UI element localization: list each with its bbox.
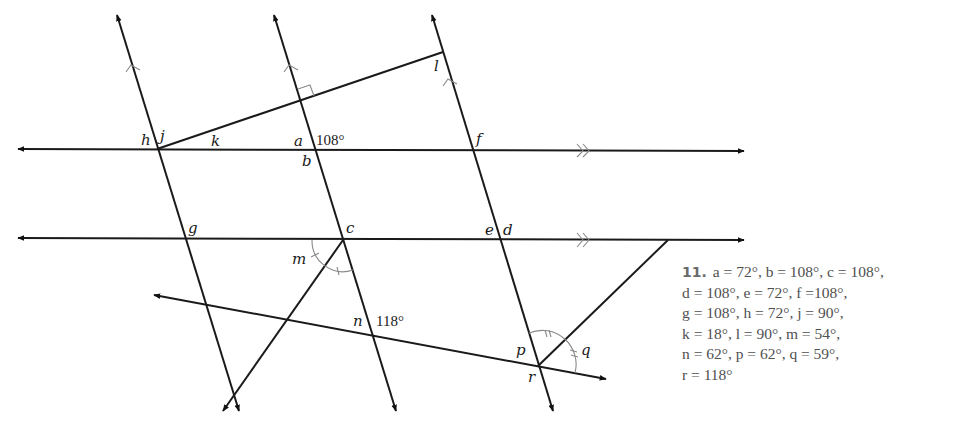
given-angle-118: 118° [376, 313, 404, 329]
answer-key: 11.a = 72°, b = 108°, c = 108°, d = 108°… [682, 262, 954, 386]
label-e: e [485, 221, 494, 239]
right-angle-marker-icon [298, 85, 314, 96]
label-n: n [353, 312, 363, 330]
label-d: d [503, 221, 513, 239]
horizontal-line-top [18, 149, 744, 151]
label-c: c [346, 219, 355, 237]
segment-r-to-middle-line [538, 240, 668, 366]
problem-number: 11. [682, 264, 707, 280]
label-r: r [528, 368, 536, 386]
answer-line-1: 11.a = 72°, b = 108°, c = 108°, [682, 262, 954, 283]
label-a: a [294, 132, 303, 150]
label-h: h [141, 131, 151, 149]
label-g: g [188, 219, 198, 237]
label-f: f [475, 130, 484, 148]
answer-line-3: g = 108°, h = 72°, j = 90°, [682, 303, 954, 324]
slanted-line-1 [117, 15, 239, 411]
slanted-line-3 [432, 15, 553, 411]
label-m: m [292, 250, 306, 268]
label-q: q [581, 341, 591, 359]
answer-line-6: r = 118° [682, 365, 954, 386]
given-angle-108: 108° [316, 132, 345, 148]
label-k: k [211, 132, 220, 150]
label-b: b [302, 152, 312, 170]
parallel-marker-icon [443, 79, 457, 86]
label-l: l [434, 57, 439, 75]
answer-line-5: n = 62°, p = 62°, q = 59°, [682, 344, 954, 365]
answer-line-2: d = 108°, e = 72°, f =108°, [682, 283, 954, 304]
horizontal-line-middle [18, 238, 744, 240]
label-j: j [157, 127, 165, 145]
label-p: p [516, 341, 526, 359]
answer-line-4: k = 18°, l = 90°, m = 54°, [682, 324, 954, 345]
lower-transversal [154, 295, 606, 379]
